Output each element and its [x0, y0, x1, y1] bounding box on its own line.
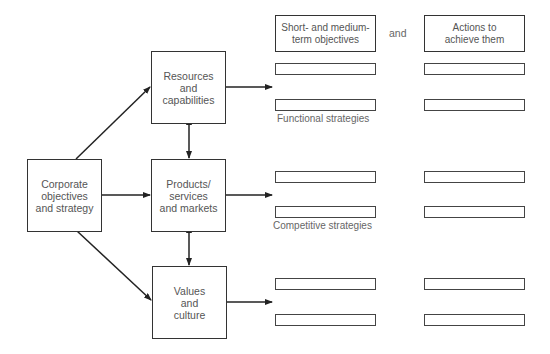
action-slot: [424, 171, 525, 183]
action-slot: [424, 278, 525, 290]
header-objectives-label: Short- and medium- term objectives: [281, 22, 369, 46]
header-actions-box: Actions to achieve them: [424, 15, 525, 52]
node-products: Products/ services and markets: [151, 159, 226, 232]
node-corporate-label: Corporate objectives and strategy: [36, 178, 94, 214]
node-corporate: Corporate objectives and strategy: [27, 159, 102, 232]
competitive-strategies-label: Competitive strategies: [273, 220, 372, 231]
action-slot: [424, 206, 525, 218]
objective-slot: [275, 314, 376, 326]
objective-slot: [275, 99, 376, 111]
objective-slot: [275, 63, 376, 75]
header-connector: and: [389, 27, 407, 39]
functional-strategies-label: Functional strategies: [277, 113, 369, 124]
node-products-label: Products/ services and markets: [160, 178, 218, 214]
header-objectives-box: Short- and medium- term objectives: [275, 15, 376, 52]
node-resources-label: Resources and capabilities: [163, 70, 215, 106]
action-slot: [424, 63, 525, 75]
action-slot: [424, 314, 525, 326]
objective-slot: [275, 171, 376, 183]
objective-slot: [275, 278, 376, 290]
objective-slot: [275, 206, 376, 218]
node-values: Values and culture: [152, 266, 227, 339]
node-values-label: Values and culture: [174, 285, 206, 321]
action-slot: [424, 99, 525, 111]
node-resources: Resources and capabilities: [151, 51, 226, 124]
header-actions-label: Actions to achieve them: [445, 22, 504, 46]
